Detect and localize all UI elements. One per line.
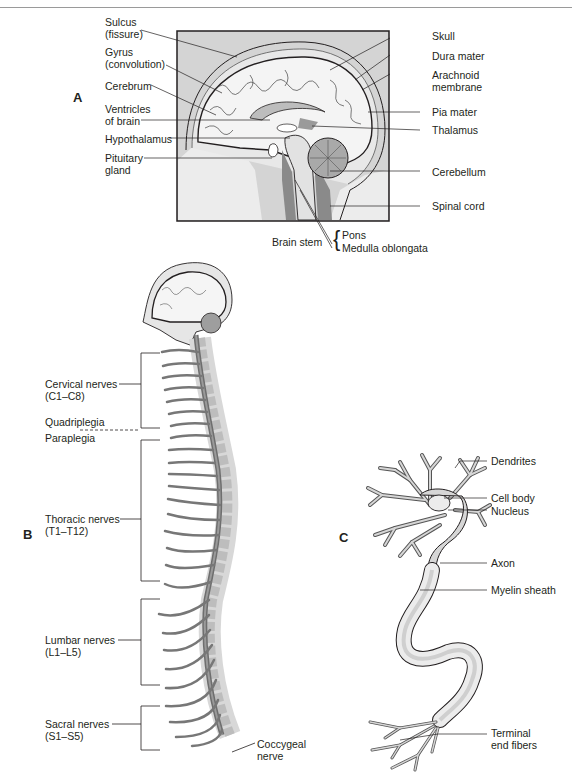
label-myelin-sheath: Myelin sheath	[491, 584, 556, 596]
label-cervical-line1: Cervical nerves	[45, 378, 117, 390]
label-pituitary: Pituitary gland	[105, 152, 143, 176]
label-terminal-line2: end fibers	[491, 739, 537, 751]
label-ventricles-line2: of brain	[105, 115, 151, 127]
label-gyrus-line2: (convolution)	[105, 58, 165, 70]
label-gyrus-line1: Gyrus	[105, 46, 165, 58]
panel-letter-a: A	[73, 90, 82, 105]
panel-letter-c: C	[339, 530, 348, 545]
label-brain-stem: Brain stem	[272, 236, 322, 248]
label-lumbar-line1: Lumbar nerves	[45, 634, 115, 646]
label-axon: Axon	[491, 557, 515, 569]
label-thalamus: Thalamus	[432, 124, 478, 136]
label-coccygeal-line1: Coccygeal	[257, 738, 306, 750]
label-nucleus: Nucleus	[491, 505, 529, 517]
label-ventricles: Ventricles of brain	[105, 103, 151, 127]
label-lumbar-nerves: Lumbar nerves (L1–L5)	[45, 634, 115, 658]
label-arachnoid-line2: membrane	[432, 81, 482, 93]
label-ventricles-line1: Ventricles	[105, 103, 151, 115]
label-cervical-line2: (C1–C8)	[45, 390, 117, 402]
label-sacral-nerves: Sacral nerves (S1–S5)	[45, 718, 109, 742]
label-sulcus: Sulcus (fissure)	[105, 16, 143, 40]
label-sacral-line2: (S1–S5)	[45, 730, 109, 742]
label-pituitary-line1: Pituitary	[105, 152, 143, 164]
brain-sagittal-illustration	[177, 31, 389, 221]
label-hypothalamus: Hypothalamus	[105, 133, 172, 145]
label-medulla-oblongata: Medulla oblongata	[342, 242, 428, 254]
label-pituitary-line2: gland	[105, 164, 143, 176]
label-thoracic-line1: Thoracic nerves	[45, 513, 120, 525]
label-cerebrum: Cerebrum	[105, 80, 152, 92]
spinal-cord-illustration	[143, 263, 232, 746]
neuron-illustration	[368, 455, 490, 770]
label-lumbar-line2: (L1–L5)	[45, 646, 115, 658]
label-cell-body: Cell body	[491, 492, 535, 504]
brace-brain-stem: {	[333, 226, 340, 252]
label-dendrites: Dendrites	[491, 455, 536, 467]
panel-letter-b: B	[23, 527, 32, 542]
label-sulcus-line1: Sulcus	[105, 16, 143, 28]
label-sacral-line1: Sacral nerves	[45, 718, 109, 730]
label-coccygeal-nerve: Coccygeal nerve	[257, 738, 306, 762]
label-sulcus-line2: (fissure)	[105, 28, 143, 40]
label-dura-mater: Dura mater	[432, 50, 485, 62]
label-pia-mater: Pia mater	[432, 106, 477, 118]
label-pons: Pons	[342, 229, 366, 241]
label-quadriplegia: Quadriplegia	[45, 416, 105, 428]
label-thoracic-line2: (T1–T12)	[45, 525, 120, 537]
label-thoracic-nerves: Thoracic nerves (T1–T12)	[45, 513, 120, 537]
label-arachnoid: Arachnoid membrane	[432, 69, 482, 93]
label-cerebellum: Cerebellum	[432, 166, 486, 178]
label-terminal-line1: Terminal	[491, 727, 537, 739]
label-gyrus: Gyrus (convolution)	[105, 46, 165, 70]
label-skull: Skull	[432, 30, 455, 42]
label-paraplegia: Paraplegia	[45, 432, 95, 444]
label-coccygeal-line2: nerve	[257, 750, 306, 762]
label-spinal-cord: Spinal cord	[432, 200, 485, 212]
label-terminal-end-fibers: Terminal end fibers	[491, 727, 537, 751]
label-arachnoid-line1: Arachnoid	[432, 69, 482, 81]
label-cervical-nerves: Cervical nerves (C1–C8)	[45, 378, 117, 402]
